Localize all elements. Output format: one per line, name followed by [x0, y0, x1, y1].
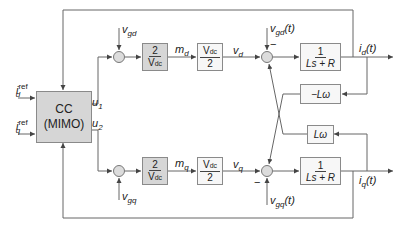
d-converter-gain-block: Vdc 2: [197, 43, 223, 71]
vd-label: vd: [233, 44, 243, 59]
d-sum-junction-1: [113, 51, 125, 63]
q-conv-num: Vdc: [200, 159, 220, 172]
id-ref-label: irefd: [16, 82, 20, 99]
q-modulation-gain-block: 2 Vdc: [142, 157, 168, 185]
q-plant-block: 1 Ls + R: [300, 157, 341, 185]
q-minus-sign: −: [254, 176, 260, 188]
id-suffix: (t): [366, 42, 376, 54]
id-ref-sub: d: [16, 90, 20, 99]
q-mod-num: 2: [149, 159, 161, 171]
q-coupling-gain: Lω: [314, 129, 327, 140]
d-mod-den-base: V: [148, 57, 155, 68]
iq-output-label: iq(t): [359, 174, 376, 189]
d-conv-den: 2: [204, 58, 216, 69]
iq-ref-sub: q: [16, 126, 20, 135]
u2-sub: 2: [98, 123, 102, 132]
d-mod-num: 2: [149, 45, 161, 57]
mq-base: m: [175, 157, 184, 169]
md-label: md: [175, 43, 189, 58]
q-conv-num-base: V: [203, 159, 210, 170]
controller-label: CC: [55, 102, 72, 117]
vgq-sub: gq: [128, 196, 137, 205]
md-base: m: [175, 43, 184, 55]
vq-label: vq: [233, 158, 243, 173]
q-mod-den-base: V: [148, 171, 155, 182]
vgd-sub: gd: [128, 29, 137, 38]
md-sub: d: [184, 49, 188, 58]
d-mod-den: Vdc: [145, 57, 165, 69]
q-conv-den: 2: [204, 172, 216, 183]
d-conv-num-base: V: [203, 45, 210, 56]
vgqt-suffix: (t): [284, 194, 294, 206]
d-plant-num: 1: [315, 46, 327, 58]
u2-label: u2: [92, 117, 103, 132]
d-coupling-block: −Lω: [300, 84, 341, 104]
id-output-label: id(t): [359, 42, 376, 57]
d-conv-num-sub: dc: [210, 48, 217, 55]
q-sum-junction-2: [261, 165, 273, 177]
d-sum-junction-2: [261, 51, 273, 63]
q-plant-num: 1: [315, 160, 327, 172]
u1-sub: 1: [98, 102, 102, 111]
q-plant-den: Ls + R: [303, 172, 338, 183]
d-minus-sign: −: [270, 38, 276, 50]
vgd-label: vgd: [122, 23, 136, 38]
vgd-t-label: vgd(t): [270, 22, 295, 37]
q-mod-den: Vdc: [145, 171, 165, 183]
q-converter-gain-block: Vdc 2: [197, 157, 223, 185]
mq-sub: q: [184, 163, 188, 172]
d-modulation-gain-block: 2 Vdc: [142, 43, 168, 71]
d-plant-block: 1 Ls + R: [300, 43, 341, 71]
vgdt-suffix: (t): [284, 22, 294, 34]
current-controller-block: CC (MIMO): [36, 91, 92, 143]
iq-ref-label: irefq: [16, 118, 20, 135]
controller-sublabel: (MIMO): [44, 117, 85, 132]
vgq-label: vgq: [122, 190, 136, 205]
d-plant-den: Ls + R: [303, 58, 338, 69]
q-mod-den-sub: dc: [155, 174, 162, 181]
vd-sub: d: [239, 50, 243, 59]
vgq-t-label: vgq(t): [270, 194, 295, 209]
d-mod-den-sub: dc: [155, 60, 162, 67]
vq-sub: q: [239, 164, 243, 173]
u1-label: u1: [92, 96, 103, 111]
mq-label: mq: [175, 157, 189, 172]
d-coupling-gain: −Lω: [311, 89, 330, 100]
q-conv-num-sub: dc: [210, 162, 217, 169]
iq-suffix: (t): [366, 174, 376, 186]
q-coupling-block: Lω: [307, 125, 334, 144]
d-conv-num: Vdc: [200, 45, 220, 58]
q-sum-junction-1: [113, 165, 125, 177]
